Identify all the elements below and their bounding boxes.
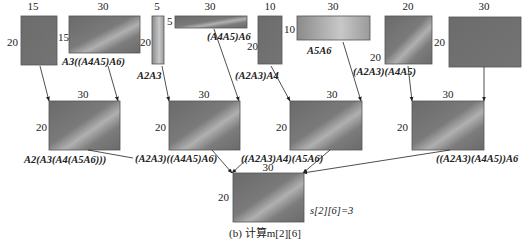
top-matrix-8: 30: [449, 0, 521, 67]
height-label: 20: [7, 36, 19, 48]
height-label: 20: [370, 51, 382, 63]
matrix-label: A2(A3(A4(A5A6))): [23, 154, 106, 166]
matrix-block: [169, 101, 240, 150]
matrix-label: (A4A5)A6: [207, 31, 252, 43]
height-label: 15: [58, 31, 70, 43]
middle-matrix-1: 30 20 A2(A3(A4(A5A6))): [23, 88, 120, 166]
height-label: 20: [36, 121, 48, 133]
matrix-label: ((A2A3)(A4A5))A6: [436, 153, 519, 165]
height-label: 20: [218, 191, 230, 203]
matrix-block: [21, 16, 57, 65]
width-label: 20: [403, 0, 415, 12]
top-matrix-4: 30 5 (A4A5)A6: [167, 0, 252, 43]
width-label: 30: [327, 88, 339, 100]
top-matrix-2: 30 15 A3((A4A5)A6): [58, 0, 140, 68]
width-label: 30: [98, 0, 110, 12]
figure-caption: (b) 计算m[2][6]: [229, 226, 301, 240]
width-label: 10: [265, 0, 277, 12]
middle-matrix-4: 30 20 ((A2A3)(A4A5))A6: [397, 88, 519, 165]
height-label: 20: [397, 121, 409, 133]
width-label: 5: [154, 0, 160, 12]
matrix-block: [297, 16, 370, 40]
matrix-block: [152, 16, 164, 64]
matrix-label: (A2A3)(A4A5): [353, 66, 416, 78]
width-label: 30: [205, 0, 217, 12]
height-label: 20: [276, 121, 288, 133]
top-matrix-3: 5 20 A2A3: [136, 0, 164, 81]
matrix-block: [175, 16, 247, 28]
width-label: 30: [199, 88, 211, 100]
matrix-label: ((A2A3)A4)(A5A6): [241, 153, 323, 165]
matrix-block: [412, 101, 484, 150]
height-label: 10: [284, 23, 296, 35]
height-label-right: 20: [434, 36, 446, 48]
middle-matrix-2: 30 20 (A2A3)((A4A5)A6): [135, 88, 240, 165]
width-label: 30: [263, 161, 275, 173]
matrix-label: A5A6: [306, 45, 332, 56]
height-label: 20: [140, 36, 152, 48]
matrix-chain-diagram: 15 20 30 15 A3((A4A5)A6) 5 20 A2A3 30 5 …: [0, 0, 527, 242]
result-matrix: 30 20 s[2][6]=3: [218, 161, 353, 222]
height-label: 5: [167, 15, 173, 27]
matrix-block: [49, 101, 120, 150]
width-label: 30: [443, 88, 455, 100]
matrix-block: [385, 16, 432, 64]
width-label: 30: [78, 88, 90, 100]
top-matrix-1: 15 20: [7, 0, 57, 65]
matrix-block: [449, 17, 521, 67]
matrix-label: A2A3: [136, 70, 162, 81]
height-label: 20: [155, 121, 167, 133]
matrix-block: [258, 16, 282, 64]
matrix-label: A3((A4A5)A6): [61, 56, 125, 68]
matrix-block: [290, 101, 362, 150]
matrix-block: [233, 173, 304, 222]
height-label: 20: [247, 40, 259, 52]
split-point-label: s[2][6]=3: [310, 205, 353, 216]
width-label: 30: [479, 0, 491, 12]
matrix-block: [69, 16, 140, 53]
width-label: 15: [28, 0, 40, 12]
top-matrix-6: 30 10 A5A6: [284, 0, 370, 56]
width-label: 30: [328, 0, 340, 12]
matrix-label: (A2A3)A4: [235, 70, 279, 82]
middle-matrix-3: 30 20 ((A2A3)A4)(A5A6): [241, 88, 362, 165]
matrix-label: (A2A3)((A4A5)A6): [135, 153, 217, 165]
